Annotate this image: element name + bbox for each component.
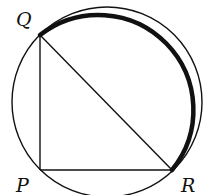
label-p: P	[16, 176, 29, 195]
label-q: Q	[16, 10, 32, 29]
segment-qr	[40, 35, 172, 170]
geometry-figure: Q P R	[0, 0, 205, 195]
bold-arc-qr	[40, 15, 193, 170]
label-r: R	[181, 176, 195, 195]
